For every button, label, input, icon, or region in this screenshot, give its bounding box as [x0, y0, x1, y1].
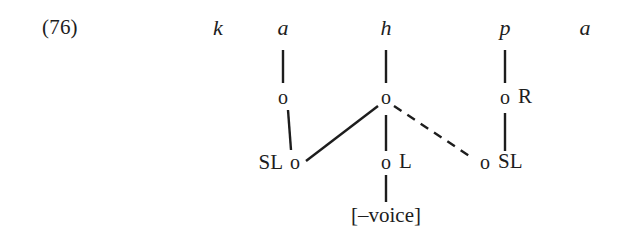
spreading-line-solid [306, 106, 378, 161]
feature-label-voice: [–voice] [351, 205, 421, 226]
segment-h: h [381, 17, 392, 39]
terminal-node-sl-left: o [290, 152, 300, 172]
tier-label-l: L [399, 151, 412, 172]
segment-p: p [500, 17, 511, 39]
example-number: (76) [42, 17, 78, 38]
terminal-node-sl-right: o [480, 152, 490, 172]
tier-label-sl-left: SL [258, 152, 283, 173]
figure-canvas: (76) k a h p a o o o R SL o o L o SL [–v… [0, 0, 624, 245]
terminal-node-l-center: o [381, 152, 391, 172]
tier-label-r: R [518, 86, 532, 107]
tier-label-sl-right: SL [498, 151, 523, 172]
segment-a-first: a [278, 17, 289, 39]
root-node-a: o [278, 87, 288, 107]
segment-k: k [213, 17, 223, 39]
association-lines-layer [0, 0, 624, 245]
segment-a-second: a [580, 17, 591, 39]
assoc-line-root-a-to-sl [288, 110, 291, 150]
root-node-p: o [500, 87, 510, 107]
root-node-h: o [381, 87, 391, 107]
